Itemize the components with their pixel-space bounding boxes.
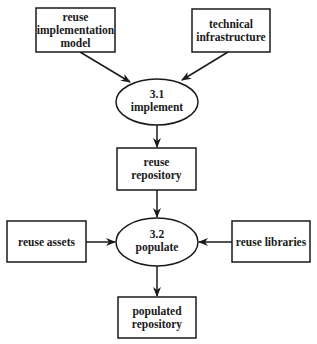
node-reuse-libraries: reuse libraries <box>232 221 310 262</box>
node-label-line: implementation <box>37 24 115 37</box>
node-label-line: repository <box>132 318 183 331</box>
node-implement-process: 3.1 implement <box>116 79 198 125</box>
node-populated-repository: populated repository <box>118 297 196 338</box>
node-label-line: reuse <box>144 156 170 168</box>
node-label-line: reuse assets <box>18 236 75 248</box>
diagram-canvas: reuse implementation model technical inf… <box>0 0 317 344</box>
node-label-line: repository <box>131 169 182 182</box>
node-reuse-implementation-model: reuse implementation model <box>36 8 115 52</box>
node-label-line: model <box>60 37 90 49</box>
process-name: implement <box>131 101 184 114</box>
node-technical-infrastructure: technical infrastructure <box>192 9 270 52</box>
node-label-line: reuse <box>63 11 89 23</box>
process-name: populate <box>136 241 179 254</box>
edge-reuse-impl-model-to-implement <box>80 52 130 82</box>
edge-tech-infra-to-implement <box>182 52 228 80</box>
process-number: 3.1 <box>150 88 165 100</box>
node-label-line: reuse libraries <box>236 236 307 248</box>
node-reuse-repository: reuse repository <box>117 148 196 190</box>
node-label-line: infrastructure <box>196 31 265 43</box>
process-number: 3.2 <box>150 228 165 240</box>
node-reuse-assets: reuse assets <box>7 221 86 262</box>
node-label-line: technical <box>209 18 253 30</box>
node-populate-process: 3.2 populate <box>116 218 198 266</box>
node-label-line: populated <box>132 305 182 318</box>
